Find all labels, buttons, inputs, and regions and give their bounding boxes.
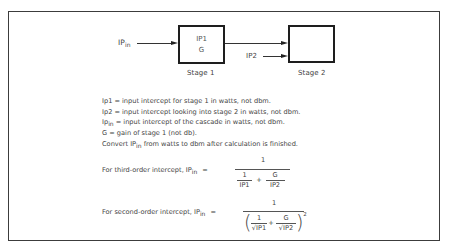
formula-third-term2-den: IP2 (265, 181, 285, 189)
formula-second-term1-den: √IP1 (249, 224, 269, 232)
input-arrowhead-icon (171, 41, 178, 45)
input-label-sub: in (125, 41, 131, 48)
definition-ipin: Ipin = input intercept of the cascade in… (102, 118, 285, 126)
formula-third-term1-num: 1 (237, 171, 252, 179)
stage-link-arrowhead-icon (281, 41, 288, 45)
formula-second-lead-text: For second-order intercept, IP (102, 208, 200, 216)
formula-second-main-bar (243, 211, 304, 212)
formula-third-term2-num: G (266, 171, 284, 179)
stage1-gain: G (180, 46, 223, 54)
definition-ipin-text: = input intercept of the cascade in watt… (114, 118, 285, 126)
formula-second-term1-num: 1 (251, 214, 267, 222)
formula-second-exponent: 2 (302, 211, 308, 217)
convert-note: Convert IPin from watts to dbm after cal… (102, 140, 298, 148)
formula-third-equals: = (202, 166, 208, 174)
convert-note-prefix: Convert IP (102, 140, 136, 148)
formula-third-plus: + (255, 176, 263, 184)
formula-second-term2-den: √IP2 (275, 224, 297, 232)
convert-note-text: from watts to dbm after calculation is f… (142, 140, 298, 148)
formula-second-equals: = (210, 208, 216, 216)
formula-second-lead-sub: in (200, 210, 205, 217)
formula-third-lead-sub: in (192, 168, 197, 175)
definition-gain: G = gain of stage 1 (not db). (102, 129, 197, 137)
formula-third-lead: For third-order intercept, IPin = (102, 166, 208, 174)
definition-ip1: Ip1 = input intercept for stage 1 in wat… (102, 97, 271, 105)
formula-second-term2-num: G (276, 214, 296, 222)
input-label: IPin (118, 38, 131, 47)
formula-third-term1-den: IP1 (236, 181, 253, 189)
formula-second-lead: For second-order intercept, IPin = (102, 208, 216, 216)
stage1-block: IP1 G (178, 25, 225, 64)
ip2-label: IP2 (246, 52, 257, 60)
input-arrow-line (137, 43, 173, 44)
input-label-main: IP (118, 38, 125, 47)
formula-third-numerator: 1 (236, 156, 290, 164)
stage1-caption: Stage 1 (187, 69, 215, 77)
formula-third-lead-text: For third-order intercept, IP (102, 166, 192, 174)
stage2-block (288, 25, 335, 63)
ip2-arrowhead-icon (281, 54, 288, 58)
stage1-ip1: IP1 (180, 35, 223, 43)
ip2-arrow-line (263, 56, 283, 57)
formula-second-plus: + (267, 219, 275, 227)
formula-second-numerator: 1 (244, 199, 304, 207)
definition-ip2: Ip2 = input intercept looking into stage… (102, 108, 300, 116)
stage-link-line (225, 43, 283, 44)
formula-third-main-bar (235, 169, 290, 170)
stage2-caption: Stage 2 (298, 69, 326, 77)
